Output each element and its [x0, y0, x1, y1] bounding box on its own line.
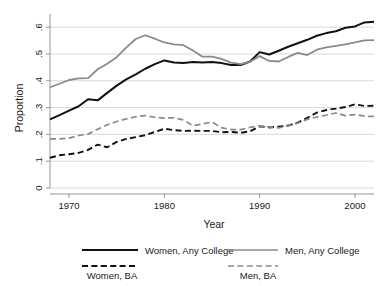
- series-line: [50, 22, 374, 120]
- series-line: [50, 113, 374, 139]
- chart-figure: 0.1.2.3.4.5.6 1970198019902000 Proportio…: [0, 0, 385, 286]
- y-tick-label: .1: [33, 157, 44, 165]
- data-series-group: [50, 22, 374, 158]
- legend-label: Men, Any College: [285, 245, 359, 256]
- y-tick-label: .5: [33, 50, 44, 58]
- y-tick-label: .4: [33, 77, 44, 85]
- legend: Women, Any CollegeMen, Any CollegeWomen,…: [82, 245, 359, 281]
- legend-label: Women, Any College: [145, 245, 234, 256]
- legend-label: Men, BA: [240, 270, 277, 281]
- legend-label: Women, BA: [87, 270, 138, 281]
- x-tick-label: 2000: [344, 200, 365, 211]
- axes: [50, 14, 374, 194]
- line-chart: 0.1.2.3.4.5.6 1970198019902000 Proportio…: [0, 0, 385, 286]
- x-tick-label: 1990: [249, 200, 270, 211]
- y-axis-title: Proportion: [13, 84, 25, 133]
- y-tick-labels: 0.1.2.3.4.5.6: [33, 23, 44, 190]
- gridlines: [50, 27, 374, 188]
- x-tick-labels: 1970198019902000: [58, 200, 365, 211]
- y-tick-label: .6: [33, 23, 44, 31]
- x-axis-title: Year: [203, 218, 225, 230]
- x-tick-label: 1980: [154, 200, 175, 211]
- y-tick-label: .3: [33, 104, 44, 112]
- tick-marks: [46, 27, 355, 198]
- y-tick-label: .2: [33, 130, 44, 138]
- x-tick-label: 1970: [58, 200, 79, 211]
- series-line: [50, 104, 374, 157]
- y-tick-label: 0: [33, 185, 44, 190]
